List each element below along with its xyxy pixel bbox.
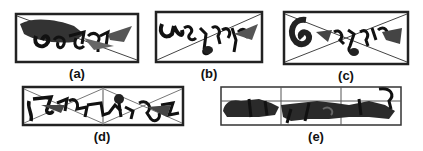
- caption-d: (d): [85, 129, 119, 144]
- panel-a: (a): [14, 12, 140, 64]
- caption-e: (e): [299, 129, 333, 144]
- panel-b-image: [154, 10, 264, 64]
- panel-b: (b): [154, 10, 264, 64]
- panel-e-image: [219, 85, 403, 127]
- caption-c: (c): [329, 68, 363, 83]
- caption-a: (a): [60, 66, 94, 81]
- panel-d: (d): [21, 85, 185, 127]
- panel-c-image: [282, 10, 410, 66]
- panel-a-image: [14, 12, 140, 64]
- caption-b: (b): [192, 66, 226, 81]
- panel-e: (e): [219, 85, 403, 127]
- panel-c: (c): [282, 10, 410, 66]
- panel-d-image: [21, 85, 185, 127]
